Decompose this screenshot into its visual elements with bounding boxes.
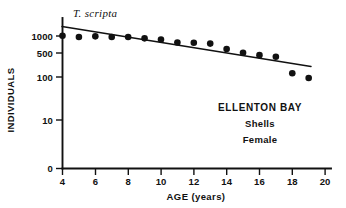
x-axis-ticks	[63, 169, 326, 176]
y-tick-label-10: 10	[42, 115, 53, 126]
x-tick-label-18: 18	[287, 176, 298, 187]
x-tick-label-8: 8	[126, 176, 131, 187]
figure-panel: 1000 500 100 10 0 4 6 8 10 12 14 16 18 2…	[0, 0, 346, 208]
x-tick-label-10: 10	[156, 176, 167, 187]
data-point	[141, 35, 148, 42]
data-point	[76, 34, 83, 41]
x-tick-label-16: 16	[254, 176, 265, 187]
annotation-material: Shells	[245, 118, 275, 129]
data-point	[240, 49, 247, 56]
data-point	[174, 39, 181, 46]
data-point	[207, 40, 214, 47]
annotation-block: ELLENTON BAY Shells Female	[218, 102, 302, 145]
x-axis-title: AGE (years)	[167, 191, 226, 202]
data-point-group	[59, 33, 312, 82]
data-point	[191, 39, 198, 46]
y-tick-label-100: 100	[37, 72, 53, 83]
data-point	[158, 36, 165, 43]
annotation-sex: Female	[243, 134, 278, 145]
data-point	[223, 46, 230, 53]
annotation-site: ELLENTON BAY	[218, 102, 302, 113]
data-point	[59, 33, 66, 40]
data-point	[92, 33, 99, 40]
x-tick-label-4: 4	[60, 176, 66, 187]
data-point	[108, 34, 115, 41]
y-axis-title: INDIVIDUALS	[5, 67, 16, 132]
data-point	[273, 53, 280, 60]
x-tick-label-20: 20	[320, 176, 331, 187]
x-tick-label-14: 14	[221, 176, 232, 187]
regression-line	[62, 27, 311, 67]
data-point	[125, 34, 132, 41]
y-tick-label-1000: 1000	[31, 31, 53, 42]
y-tick-label-0: 0	[48, 163, 53, 174]
x-tick-label-6: 6	[93, 176, 98, 187]
species-label: T. scripta	[73, 7, 118, 19]
x-tick-label-12: 12	[189, 176, 200, 187]
y-tick-label-500: 500	[37, 48, 53, 59]
y-axis-ticks	[56, 36, 63, 169]
data-point	[305, 75, 312, 82]
data-point	[289, 70, 296, 77]
survivorship-chart: 1000 500 100 10 0 4 6 8 10 12 14 16 18 2…	[0, 0, 346, 208]
data-point	[256, 52, 263, 59]
